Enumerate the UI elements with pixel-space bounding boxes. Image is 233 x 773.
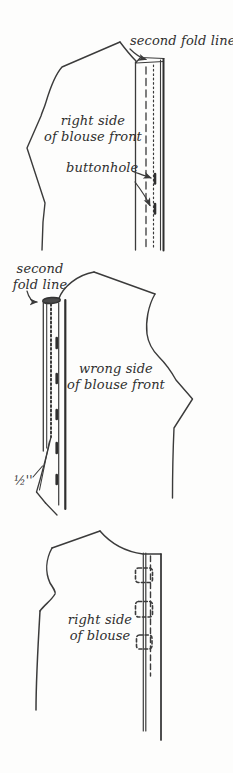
label-right-side-of-blouse: right side of blouse bbox=[55, 612, 145, 643]
neckline bbox=[100, 531, 161, 554]
figure-middle-wrong-side bbox=[27, 272, 193, 515]
blouse-outline bbox=[147, 294, 193, 498]
hem-flap-inner bbox=[40, 441, 50, 490]
side-seam bbox=[36, 611, 40, 710]
shoulder-line bbox=[94, 272, 155, 294]
label-half-inch-measurement: ½'' bbox=[14, 474, 33, 490]
label-second-fold-line: second fold line bbox=[130, 33, 233, 49]
buttonhole-arrow bbox=[135, 182, 150, 206]
book-illustration-page: second fold line right side of blouse fr… bbox=[0, 0, 233, 773]
armhole-curve bbox=[40, 548, 55, 611]
hem-flap-bottom bbox=[37, 492, 46, 503]
hem-flap-tail bbox=[46, 503, 58, 515]
fold-line-arrow bbox=[27, 291, 37, 302]
shoulder-line bbox=[52, 531, 100, 548]
label-second-fold-line: second fold line bbox=[4, 261, 76, 292]
label-wrong-side-of-blouse-front: wrong side of blouse front bbox=[60, 361, 172, 392]
band-fold-cap bbox=[43, 297, 61, 304]
label-buttonhole: buttonhole bbox=[66, 160, 138, 176]
blouse-outline bbox=[27, 42, 120, 250]
band-top-edge bbox=[136, 58, 165, 64]
label-right-side-of-blouse-front: right side of blouse front bbox=[38, 113, 148, 144]
figure-top-right-side bbox=[27, 42, 164, 251]
